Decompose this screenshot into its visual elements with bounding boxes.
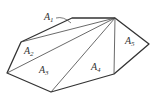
label-a4: A4 — [90, 61, 101, 74]
label-a2: A2 — [23, 45, 34, 58]
diagonal-PT — [51, 18, 115, 92]
diagonal-PR — [21, 18, 115, 42]
diagonal-PU — [114, 18, 115, 74]
label-a3: A3 — [38, 64, 49, 77]
label-a5: A5 — [124, 35, 135, 48]
triangulated-polygon-diagram: A1A2A3A4A5 — [0, 0, 167, 100]
label-a1: A1 — [43, 11, 54, 24]
